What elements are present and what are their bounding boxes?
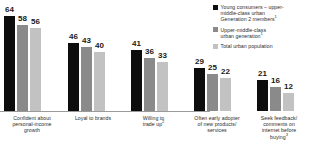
bar: 16: [270, 87, 281, 111]
bar-value-label: 43: [82, 36, 91, 45]
legend-swatch: [213, 44, 218, 49]
category-label: Willing totrade up2: [126, 115, 181, 127]
bar-value-label: 46: [69, 32, 78, 41]
bar-value-label: 58: [18, 14, 27, 23]
bar-value-label: 40: [95, 41, 104, 50]
bar-group: 413633: [131, 7, 168, 111]
bar-value-label: 16: [271, 76, 280, 85]
bar: 43: [81, 47, 92, 111]
x-axis-baseline: [0, 111, 210, 112]
category-label: Loyal to brands: [62, 115, 124, 121]
chart-legend: Young consumers – upper-middle-class urb…: [213, 4, 317, 53]
legend-label: Upper-middle-classurban generation1: [221, 27, 267, 39]
bar: 64: [4, 16, 15, 111]
category-label: Often early adopterof new products/servi…: [186, 115, 248, 134]
bar-group: 464340: [68, 7, 105, 111]
legend-label: Total urban population: [221, 43, 273, 49]
bar-value-label: 25: [208, 63, 217, 72]
bar: 22: [220, 78, 231, 111]
bar-value-label: 56: [31, 17, 40, 26]
bar: 29: [194, 68, 205, 111]
bar: 41: [131, 50, 142, 111]
bar-value-label: 41: [132, 39, 141, 48]
bar-value-label: 29: [195, 57, 204, 66]
bar: 21: [257, 80, 268, 111]
legend-item: Upper-middle-classurban generation1: [213, 27, 317, 39]
bar-value-label: 22: [221, 67, 230, 76]
category-label: Seek feedback/comments oninternet before…: [248, 115, 310, 140]
bar: 40: [94, 52, 105, 111]
bar-value-label: 21: [258, 69, 267, 78]
legend-label: Young consumers – upper-middle-class urb…: [221, 4, 284, 23]
bar: 46: [68, 43, 79, 111]
bar-value-label: 12: [284, 82, 293, 91]
legend-swatch: [213, 27, 218, 32]
bar: 33: [157, 62, 168, 111]
bar-value-label: 64: [5, 5, 14, 14]
bar: 58: [17, 25, 28, 111]
bar-group: 645856: [4, 7, 41, 111]
bar: 56: [30, 28, 41, 111]
bar: 12: [283, 93, 294, 111]
plot-area: 645856464340413633292522211612: [0, 0, 210, 112]
bar-value-label: 36: [145, 47, 154, 56]
bar-value-label: 33: [158, 51, 167, 60]
legend-item: Total urban population: [213, 43, 317, 49]
legend-swatch: [213, 5, 218, 10]
legend-item: Young consumers – upper-middle-class urb…: [213, 4, 317, 23]
bar: 25: [207, 74, 218, 111]
bar: 36: [144, 58, 155, 111]
category-label: Confident aboutpersonal-incomegrowth: [1, 115, 63, 134]
bar-chart: 645856464340413633292522211612 Confident…: [0, 0, 319, 151]
